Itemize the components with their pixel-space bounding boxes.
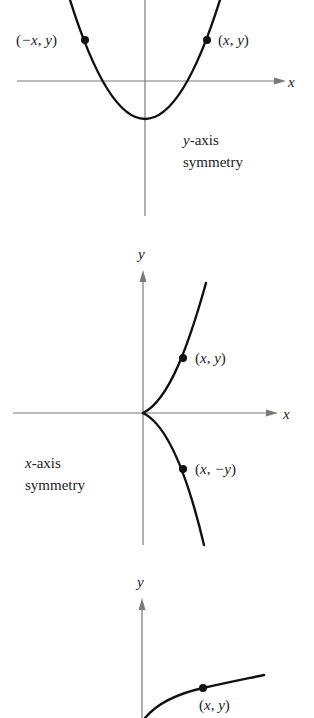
point-x-neg-y <box>179 465 187 473</box>
point-label-neg-x-y: (−x, y) <box>16 32 57 49</box>
caption-line-2: symmetry <box>25 477 85 493</box>
panel-x-axis-symmetry: x y (x, y) (x, −y) x-axis symmetry <box>13 246 290 545</box>
y-axis-label: y <box>136 246 145 262</box>
caption-line-2: symmetry <box>183 154 243 170</box>
x-axis-arrow-icon <box>274 78 286 85</box>
panel-origin-symmetry-partial: y (x, y) <box>135 574 264 718</box>
y-axis-arrow-icon <box>140 270 147 282</box>
point-neg-x-y <box>81 36 89 44</box>
x-axis-arrow-icon <box>266 410 278 417</box>
point-x-y <box>203 36 211 44</box>
x-axis-label: x <box>282 406 290 422</box>
point-x-y <box>199 684 207 692</box>
caption-line-1: y-axis <box>181 132 219 148</box>
point-x-y <box>179 354 187 362</box>
panel-y-axis-symmetry: x (−x, y) (x, y) y-axis symmetry <box>16 0 295 216</box>
y-axis-label: y <box>135 574 144 590</box>
point-label-x-y: (x, y) <box>218 32 249 49</box>
x-axis-label: x <box>287 74 295 90</box>
point-label-x-neg-y: (x, −y) <box>195 461 236 478</box>
symmetry-diagrams: x (−x, y) (x, y) y-axis symmetry x y (x,… <box>0 0 314 718</box>
caption-line-1: x-axis <box>24 455 61 471</box>
upper-curve <box>143 283 206 413</box>
point-label-x-y: (x, y) <box>199 697 230 714</box>
y-axis-arrow-icon <box>139 598 146 610</box>
point-label-x-y: (x, y) <box>195 350 226 367</box>
lower-curve <box>143 413 204 545</box>
